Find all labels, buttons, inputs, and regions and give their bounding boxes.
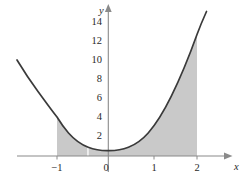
x-axis-label: x: [234, 162, 239, 173]
area-under-curve-shading: [57, 35, 197, 157]
y-tick-label-4: 4: [84, 112, 102, 123]
y-axis-arrowhead: [105, 4, 112, 12]
y-axis-label: y: [99, 6, 104, 17]
y-axis: [105, 4, 112, 172]
x-tick-label-neg1: −1: [48, 163, 66, 174]
x-axis-arrowhead: [224, 153, 233, 160]
y-tick-label-2: 2: [84, 131, 102, 142]
y-tick-label-10: 10: [84, 55, 102, 66]
y-tick-label-8: 8: [84, 74, 102, 85]
area-under-parabola-figure: 14 12 10 8 6 4 2 −1 0 1 2 y x: [0, 0, 247, 183]
y-tick-label-6: 6: [84, 93, 102, 104]
x-tick-label-1: 1: [145, 163, 163, 174]
shaded-area-path: [57, 35, 197, 157]
x-tick-label-0: 0: [97, 163, 115, 174]
plot-canvas: [0, 0, 247, 183]
y-tick-label-12: 12: [84, 36, 102, 47]
x-tick-label-2: 2: [188, 163, 206, 174]
y-tick-label-14: 14: [84, 17, 102, 28]
